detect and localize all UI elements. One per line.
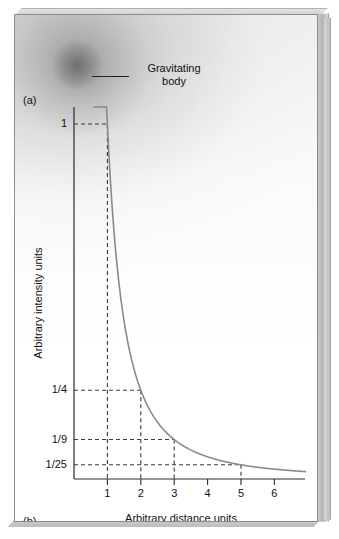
figure-panel: Gravitating body (a) (b) Arbitrary inten… (14, 14, 318, 522)
x-tick-marks (107, 479, 274, 485)
x-tick-label-6: 6 (263, 487, 285, 499)
x-tick-label-4: 4 (197, 487, 219, 499)
inverse-square-curve (94, 107, 306, 472)
y-tick-label-1-4: 1/4 (23, 383, 67, 395)
x-tick-label-5: 5 (230, 487, 252, 499)
x-axis-title: Arbitrary distance units (61, 512, 301, 522)
guide-lines (74, 124, 241, 479)
y-tick-label-1: 1 (23, 117, 67, 129)
slab-right-face-2 (324, 18, 331, 520)
figure-root: Gravitating body (a) (b) Arbitrary inten… (0, 0, 339, 539)
x-tick-label-3: 3 (163, 487, 185, 499)
y-tick-label-1-9: 1/9 (23, 433, 67, 445)
y-tick-label-1-25: 1/25 (23, 458, 67, 470)
y-axis-title: Arbitrary intensity units (32, 228, 44, 378)
x-tick-label-1: 1 (96, 487, 118, 499)
inverse-square-plot (15, 15, 318, 522)
x-tick-label-2: 2 (130, 487, 152, 499)
